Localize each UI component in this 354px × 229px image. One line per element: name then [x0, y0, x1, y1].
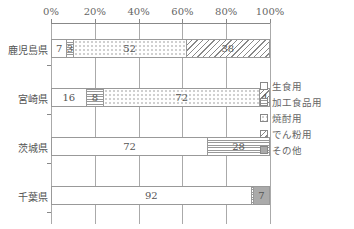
- data-label: 7: [258, 190, 264, 201]
- legend-label: 焼酎用: [272, 111, 302, 125]
- bar-segment: 7: [254, 187, 269, 204]
- bar-segment: 72: [104, 89, 260, 106]
- processed-swatch-icon: [260, 98, 268, 106]
- bar-0: 735238: [51, 39, 270, 58]
- data-label: 52: [122, 43, 137, 54]
- legend-label: その他: [272, 143, 302, 157]
- y-tick-mark: [47, 163, 51, 164]
- legend-label: でん粉用: [272, 127, 312, 141]
- x-tick-label: 20%: [84, 6, 106, 17]
- category-label: 千葉県: [18, 189, 48, 204]
- legend-item-processed: 加工食品用: [260, 94, 322, 110]
- x-tick-label: 60%: [171, 6, 193, 17]
- data-label: 92: [145, 190, 158, 201]
- bar-2: 7228: [51, 137, 270, 156]
- x-tick-mark: [270, 19, 271, 23]
- y-tick-mark: [47, 65, 51, 66]
- x-tick-label: 100%: [256, 6, 285, 17]
- legend-item-shochu: 焼酎用: [260, 110, 322, 126]
- category-label: 鹿児島県: [8, 42, 48, 57]
- category-label: 茨城県: [18, 140, 48, 155]
- x-tick-label: 0%: [43, 6, 59, 17]
- x-axis-line: [51, 23, 270, 24]
- bar-3: 927: [51, 186, 270, 205]
- other-swatch-icon: [260, 146, 268, 154]
- legend-item-other: その他: [260, 142, 322, 158]
- bar-1: 168724: [51, 88, 270, 107]
- data-label: 8: [91, 92, 99, 103]
- bar-segment: 72: [52, 138, 208, 155]
- data-label: 38: [220, 43, 235, 54]
- legend-item-starch: でん粉用: [260, 126, 322, 142]
- data-label: 16: [62, 92, 75, 103]
- data-label: 7: [56, 43, 62, 54]
- legend-label: 加工食品用: [272, 95, 322, 109]
- y-tick-mark: [47, 212, 51, 213]
- starch-swatch-icon: [260, 130, 268, 138]
- shochu-swatch-icon: [260, 114, 268, 122]
- category-label: 宮崎県: [18, 91, 48, 106]
- bar-segment: 92: [52, 187, 252, 204]
- bar-segment: 52: [74, 40, 187, 57]
- data-label: 72: [123, 141, 136, 152]
- legend-item-raw: 生食用: [260, 78, 322, 94]
- data-label: 72: [174, 92, 189, 103]
- bar-segment: 16: [52, 89, 87, 106]
- x-tick-label: 80%: [215, 6, 237, 17]
- y-tick-mark: [47, 114, 51, 115]
- legend-label: 生食用: [272, 79, 302, 93]
- bar-segment: 38: [187, 40, 269, 57]
- legend: 生食用 加工食品用 焼酎用 でん粉用 その他: [260, 78, 322, 158]
- raw-swatch-icon: [260, 82, 268, 90]
- bar-segment: 8: [87, 89, 104, 106]
- x-tick-label: 40%: [127, 6, 149, 17]
- data-label: 28: [231, 141, 246, 152]
